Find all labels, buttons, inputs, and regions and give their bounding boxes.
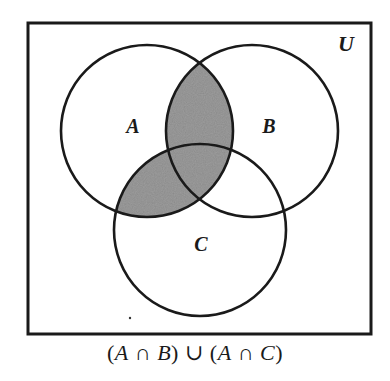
caption-set-a-2: A	[218, 340, 232, 365]
caption-set-a-1: A	[115, 340, 129, 365]
diagram-caption: (A ∩ B) ∪ (A ∩ C)	[0, 340, 390, 366]
set-a-label: A	[124, 115, 139, 137]
universe-label: U	[338, 31, 355, 56]
caption-close-paren-2: )	[275, 340, 283, 365]
scan-speck	[129, 317, 131, 319]
caption-union: ∪	[179, 340, 210, 365]
caption-open-paren-2: (	[210, 340, 218, 365]
caption-intersect-1: ∩	[129, 340, 157, 365]
caption-set-b: B	[157, 340, 171, 365]
caption-open-paren-1: (	[107, 340, 115, 365]
caption-intersect-2: ∩	[232, 340, 260, 365]
venn-diagram: A B C U	[0, 0, 390, 381]
caption-close-paren-1: )	[171, 340, 179, 365]
set-b-label: B	[261, 115, 275, 137]
set-c-label: C	[194, 233, 208, 255]
caption-set-c: C	[260, 340, 275, 365]
